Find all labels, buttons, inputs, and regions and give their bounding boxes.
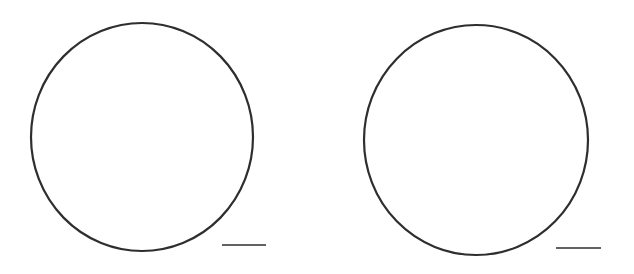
circle-outline-right (364, 25, 588, 255)
panel-right (364, 25, 601, 255)
panel-left (31, 23, 266, 251)
figure-canvas (0, 0, 634, 274)
circle-outline-left (31, 23, 253, 251)
